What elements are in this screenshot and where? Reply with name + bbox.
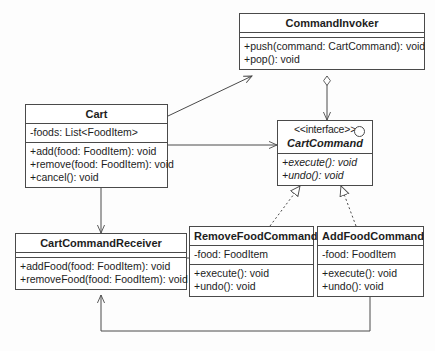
edge-removefoodcommand-realizes-cartcommand [270,186,300,226]
method-item: +cancel(): void [30,171,163,184]
class-box-add-food-command[interactable]: AddFoodCommand -food: FoodItem +execute(… [317,226,424,297]
class-name-command-invoker: CommandInvoker [240,14,424,32]
edge-addfoodcommand-to-cartcommandreceiver [101,292,370,331]
class-name-cart-command-receiver: CartCommandReceiver [16,234,186,252]
interface-header-cart-command: <<interface>> CartCommand [278,121,372,153]
attribute-item: -food: FoodItem [322,248,419,261]
method-item: +execute(): void [194,267,309,280]
methods-compartment-command-invoker: +push(command: CartCommand): void +pop()… [240,37,424,69]
method-item: +undo(): void [194,280,309,293]
attributes-compartment-cart: -foods: List<FoodItem> [26,123,167,142]
interface-lollipop-icon [354,126,365,137]
method-item: +addFood(food: FoodItem): void [20,260,182,273]
method-item: +execute(): void [322,267,419,280]
method-item: +pop(): void [244,53,420,66]
class-name-add-food-command: AddFoodCommand [318,227,423,245]
class-box-cart-command[interactable]: <<interface>> CartCommand +execute(): vo… [277,120,373,186]
class-name-remove-food-command: RemoveFoodCommand [190,227,313,245]
attributes-compartment-add-food-command: -food: FoodItem [318,245,423,264]
class-box-cart[interactable]: Cart -foods: List<FoodItem> +add(food: F… [25,104,168,188]
method-item: +push(command: CartCommand): void [244,40,420,53]
class-box-cart-command-receiver[interactable]: CartCommandReceiver +addFood(food: FoodI… [15,233,187,290]
methods-compartment-cart: +add(food: FoodItem): void +remove(food:… [26,142,167,187]
class-name-cart: Cart [26,105,167,123]
class-box-remove-food-command[interactable]: RemoveFoodCommand -food: FoodItem +execu… [189,226,314,297]
method-item: +add(food: FoodItem): void [30,145,163,158]
attributes-compartment-remove-food-command: -food: FoodItem [190,245,313,264]
class-name-cart-command: CartCommand [282,136,368,150]
methods-compartment-cart-command: +execute(): void +undo(): void [278,153,372,185]
method-item: +undo(): void [282,169,368,182]
methods-compartment-remove-food-command: +execute(): void +undo(): void [190,264,313,296]
method-item: +execute(): void [282,156,368,169]
method-item: +remove(food: FoodItem): void [30,158,163,171]
class-box-command-invoker[interactable]: CommandInvoker +push(command: CartComman… [239,13,425,70]
methods-compartment-add-food-command: +execute(): void +undo(): void [318,264,423,296]
uml-class-diagram-canvas: CommandInvoker +push(command: CartComman… [0,0,435,351]
edge-addfoodcommand-realizes-cartcommand [341,186,356,226]
method-item: +undo(): void [322,280,419,293]
attribute-item: -food: FoodItem [194,248,309,261]
methods-compartment-cart-command-receiver: +addFood(food: FoodItem): void +removeFo… [16,257,186,289]
attribute-item: -foods: List<FoodItem> [30,126,163,139]
edge-cart-to-commandinvoker [168,76,252,116]
method-item: +removeFood(food: FoodItem): void [20,273,182,286]
